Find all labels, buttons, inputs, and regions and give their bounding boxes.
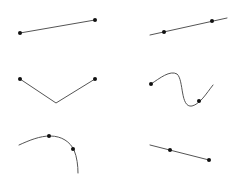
curve-stroke [151, 73, 213, 106]
shape-line-through-two-points [150, 18, 227, 35]
point-dot [71, 147, 75, 151]
shape-straight-segment [18, 18, 97, 35]
point-dot [162, 30, 166, 34]
polyline-stroke [20, 79, 95, 103]
point-dot [197, 99, 201, 103]
shape-s-curve [149, 73, 213, 106]
shape-v-polyline [18, 77, 97, 103]
endpoint-dot [18, 77, 22, 81]
point-dot [207, 158, 211, 162]
point-dot [168, 148, 172, 152]
curve-stroke [19, 136, 78, 173]
shape-ray-segment [150, 145, 211, 162]
segment-line [20, 20, 95, 33]
point-dot [210, 19, 214, 23]
line-stroke [150, 18, 227, 35]
endpoint-dot [93, 18, 97, 22]
point-dot [47, 134, 51, 138]
shape-arc-curve [19, 134, 78, 173]
diagram-canvas [0, 0, 241, 184]
segment-line [150, 145, 209, 160]
endpoint-dot [18, 31, 22, 35]
point-dot [149, 82, 153, 86]
endpoint-dot [93, 77, 97, 81]
shapes-svg [0, 0, 241, 184]
